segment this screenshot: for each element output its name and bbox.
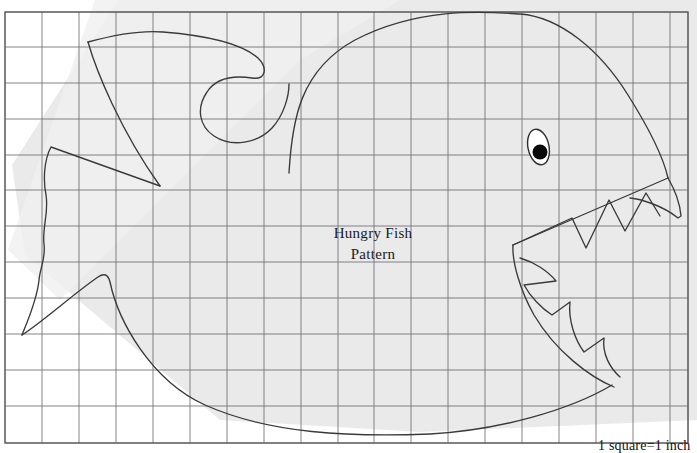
pattern-canvas: Hungry Fish Pattern 1 square=1 inch (0, 0, 697, 453)
scale-note: 1 square=1 inch (598, 438, 691, 453)
pattern-title-line1: Hungry Fish (334, 225, 413, 241)
pattern-sheet: Hungry Fish Pattern 1 square=1 inch (0, 0, 697, 453)
eye-pupil-icon (533, 145, 548, 160)
pattern-title-line2: Pattern (351, 246, 396, 262)
